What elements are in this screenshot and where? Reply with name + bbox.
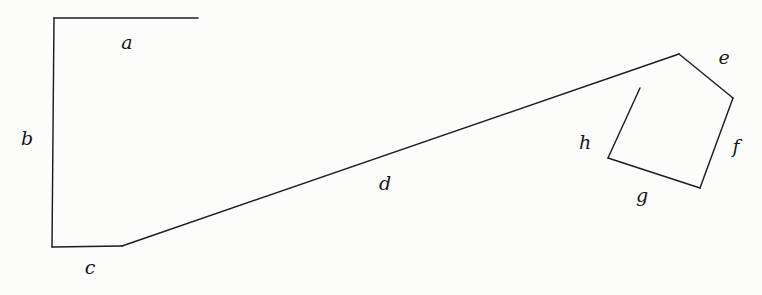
segment-label-f: f bbox=[732, 137, 739, 156]
segment-b-path bbox=[52, 18, 54, 247]
segment-label-g: g bbox=[636, 186, 648, 205]
segment-f-path bbox=[700, 98, 733, 188]
segment-label-e: e bbox=[718, 48, 729, 67]
segment-g-path bbox=[608, 158, 700, 188]
segment-d-path bbox=[122, 54, 679, 246]
segment-label-a: a bbox=[121, 33, 132, 52]
line-drawing-svg bbox=[0, 0, 762, 295]
segment-label-d: d bbox=[379, 174, 391, 193]
figure-canvas: a b c d e f g h bbox=[0, 0, 762, 295]
segment-c-path bbox=[52, 246, 122, 247]
segment-label-h: h bbox=[579, 133, 591, 152]
segment-label-b: b bbox=[21, 129, 33, 148]
segment-h-path bbox=[608, 88, 640, 158]
segment-label-c: c bbox=[85, 258, 96, 277]
